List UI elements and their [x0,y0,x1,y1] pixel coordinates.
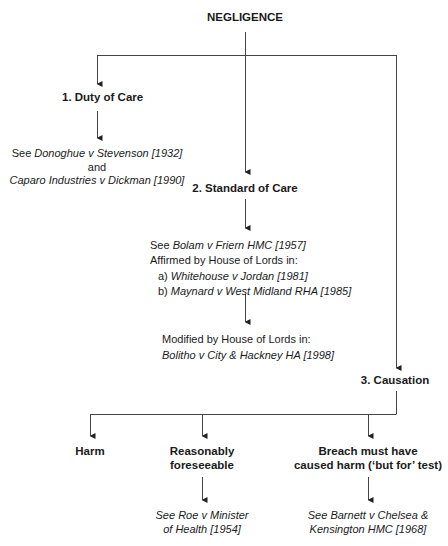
breach-line-1: Breach must have [294,445,442,459]
roe-case: See Roe v Minister of Health [1954] [156,508,249,536]
affirmed-line: Affirmed by House of Lords in: [150,253,351,268]
whitehouse-line: a) Whitehouse v Jordan [1981] [158,269,351,284]
breach-label: Breach must have caused harm (‘but for’ … [294,445,442,472]
roe-line-2: of Health [1954] [156,522,249,536]
duty-case-line-2: and [10,161,185,175]
maynard-line: b) Maynard v West Midland RHA [1985] [158,284,351,299]
duty-cases: See Donoghue v Stevenson [1932] and Capa… [10,147,185,188]
barnett-case: See Barnett v Chelsea & Kensington HMC [… [308,508,428,536]
modified-block: Modified by House of Lords in: Bolitho v… [162,331,334,363]
duty-case-line-1: See Donoghue v Stevenson [1932] [10,147,185,161]
duty-case-line-3: Caparo Industries v Dickman [1990] [10,174,185,188]
standard-cases: See Bolam v Friern HMC [1957] Affirmed b… [150,238,351,298]
foreseeable-line-1: Reasonably [170,445,235,459]
heading-duty-of-care: 1. Duty of Care [62,91,143,104]
harm-label: Harm [75,445,104,458]
barnett-line-1: See Barnett v Chelsea & [308,508,428,522]
modified-line: Modified by House of Lords in: [162,331,334,347]
heading-standard-of-care: 2. Standard of Care [192,182,297,195]
bolam-line: See Bolam v Friern HMC [1957] [150,238,351,253]
heading-causation: 3. Causation [361,374,429,387]
foreseeable-line-2: foreseeable [170,459,235,473]
foreseeable-label: Reasonably foreseeable [170,445,235,472]
title-negligence: NEGLIGENCE [207,11,283,24]
roe-line-1: See Roe v Minister [156,508,249,522]
breach-line-2: caused harm (‘but for’ test) [294,459,442,473]
bolitho-line: Bolitho v City & Hackney HA [1998] [162,347,334,363]
barnett-line-2: Kensington HMC [1968] [308,522,428,536]
